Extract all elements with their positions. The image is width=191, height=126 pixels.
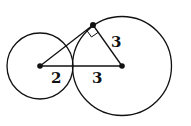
large-center-point: [119, 63, 125, 69]
label-small-radius: 2: [51, 69, 61, 87]
right-angle-marker: [87, 30, 99, 37]
label-gap-segment: 3: [92, 69, 102, 87]
tangent-segment: [40, 25, 93, 66]
geometry-diagram: 2 3 3: [0, 0, 191, 126]
tangent-point: [90, 22, 96, 28]
label-large-radius: 3: [111, 33, 121, 51]
small-center-point: [37, 63, 43, 69]
